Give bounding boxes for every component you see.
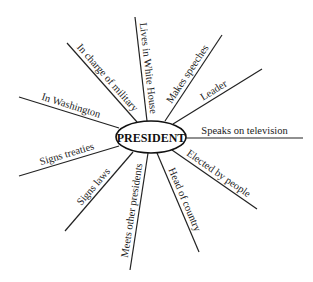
spoke-label: Signs laws: [74, 166, 112, 207]
spoke-label: Speaks on television: [201, 125, 288, 136]
spoke-meets-other-presidents: Meets other presidents: [119, 153, 148, 270]
spoke-line: [165, 35, 222, 121]
spoke-line: [65, 152, 133, 231]
spoke-in-washington: In Washington: [19, 91, 119, 128]
president-concept-web: Lives in White HouseIn charge of militar…: [0, 0, 313, 282]
spoke-label: Meets other presidents: [119, 163, 144, 259]
spoke-label: Head of country: [167, 166, 204, 234]
spoke-makes-speeches: Makes speeches: [164, 35, 222, 121]
spoke-signs-laws: Signs laws: [65, 152, 133, 231]
spoke-label: Elected by people: [185, 147, 253, 199]
spoke-label: Signs treaties: [38, 140, 95, 167]
center-node: PRESIDENT: [116, 121, 186, 153]
spoke-head-of-country: Head of country: [157, 153, 204, 252]
center-label: PRESIDENT: [117, 131, 186, 145]
spoke-label: In Washington: [40, 91, 102, 120]
spoke-speaks-on-television: Speaks on television: [186, 125, 303, 138]
